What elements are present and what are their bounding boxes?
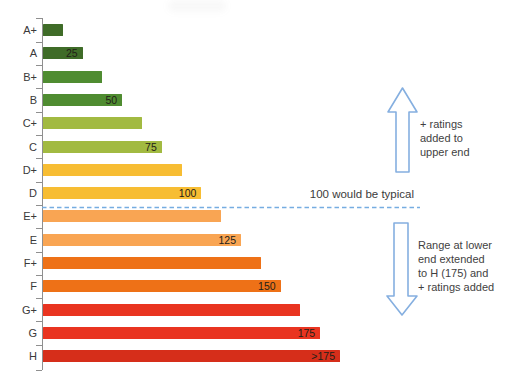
category-label-G: G — [0, 326, 37, 340]
axis-tick — [36, 205, 42, 206]
bar-value-label-B: 50 — [106, 94, 118, 106]
down-arrow-icon — [387, 223, 417, 315]
bar-D: 100 — [43, 187, 201, 199]
category-label-D+: D+ — [0, 163, 37, 177]
category-label-H: H — [0, 349, 37, 363]
lower-annotation-text: Range at lower end extended to H (175) a… — [418, 238, 503, 294]
bar-value-label-E: 125 — [218, 234, 236, 246]
bar-value-label-D: 100 — [179, 187, 197, 199]
rating-bands-chart: A+A25B+B50C+C75D+D100E+E125F+F150G+G175H… — [0, 0, 505, 388]
axis-tick — [36, 88, 42, 89]
category-label-F: F — [0, 279, 37, 293]
axis-tick — [36, 275, 42, 276]
bar-B+ — [43, 71, 102, 83]
axis-tick — [36, 112, 42, 113]
axis-tick — [36, 135, 42, 136]
bar-value-label-F: 150 — [258, 280, 276, 292]
axis-tick — [36, 345, 42, 346]
category-label-C: C — [0, 140, 37, 154]
upper-annotation-text: + ratings added to upper end — [420, 117, 500, 159]
axis-tick — [36, 321, 42, 322]
axis-tick — [36, 252, 42, 253]
bar-value-label-C: 75 — [145, 141, 157, 153]
bar-A+ — [43, 24, 63, 36]
category-label-G+: G+ — [0, 303, 37, 317]
category-label-B: B — [0, 93, 37, 107]
bar-value-label-H: >175 — [311, 350, 335, 362]
bar-F+ — [43, 257, 261, 269]
axis-tick — [36, 42, 42, 43]
category-label-E: E — [0, 233, 37, 247]
category-label-B+: B+ — [0, 70, 37, 84]
bar-G: 175 — [43, 327, 320, 339]
bar-A: 25 — [43, 47, 83, 59]
bar-value-label-A: 25 — [66, 47, 78, 59]
category-label-A+: A+ — [0, 23, 37, 37]
category-label-A: A — [0, 46, 37, 60]
axis-tick — [36, 182, 42, 183]
axis-tick — [36, 158, 42, 159]
axis-tick — [36, 228, 42, 229]
category-label-E+: E+ — [0, 209, 37, 223]
axis-tick — [36, 370, 42, 371]
category-label-F+: F+ — [0, 256, 37, 270]
bar-G+ — [43, 304, 300, 316]
bar-C+ — [43, 117, 142, 129]
bar-E: 125 — [43, 234, 241, 246]
bar-D+ — [43, 164, 182, 176]
axis-tick — [36, 65, 42, 66]
axis-tick — [36, 298, 42, 299]
reference-line-label: 100 would be typical — [300, 188, 414, 200]
bar-E+ — [43, 210, 221, 222]
axis-tick — [36, 18, 42, 19]
scan-artifact — [168, 0, 226, 12]
bar-H: >175 — [43, 350, 340, 362]
up-arrow-icon — [388, 88, 417, 172]
bar-F: 150 — [43, 280, 281, 292]
category-label-C+: C+ — [0, 116, 37, 130]
bar-value-label-G: 175 — [298, 327, 316, 339]
category-label-D: D — [0, 186, 37, 200]
bar-C: 75 — [43, 141, 162, 153]
bar-B: 50 — [43, 94, 122, 106]
